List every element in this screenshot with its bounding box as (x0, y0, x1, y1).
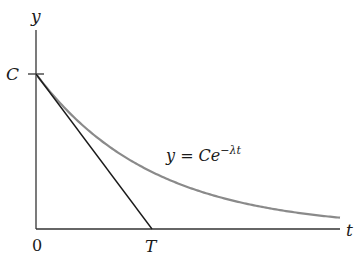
decay-diagram: y C 0 T t y = Ce−λt (0, 0, 359, 264)
t-intercept-label: T (145, 236, 158, 256)
c-label: C (6, 64, 19, 84)
tangent-line (36, 74, 152, 229)
curve-equation: y = Ce−λt (165, 144, 242, 165)
t-axis-label: t (346, 220, 353, 240)
origin-label: 0 (32, 236, 42, 255)
equation-exponent: −λt (220, 144, 241, 157)
y-axis-label: y (30, 6, 41, 26)
equation-base: y = Ce (165, 146, 220, 165)
